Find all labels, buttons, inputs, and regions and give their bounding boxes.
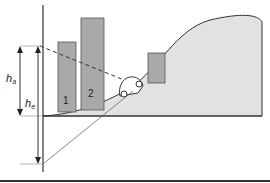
h-a-label: ha [6, 72, 16, 85]
terrain-diagram: 1 2 ha he [0, 0, 270, 183]
height-a-arrow [17, 46, 23, 116]
building-3 [148, 53, 165, 83]
h-e-label: he [25, 97, 35, 110]
building-1-label: 1 [63, 95, 69, 106]
bottom-rule [0, 180, 270, 182]
height-e-arrow [35, 46, 41, 164]
building-2-label: 2 [88, 88, 94, 99]
